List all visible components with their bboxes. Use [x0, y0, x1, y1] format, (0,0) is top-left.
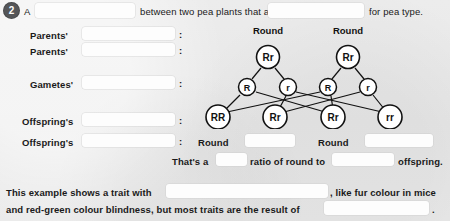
- question-number-badge: 2: [3, 2, 20, 19]
- intro-blank-2[interactable]: [268, 3, 364, 18]
- row-colon-2: :: [179, 45, 182, 56]
- parents-blank-2[interactable]: [82, 43, 175, 56]
- parent-genotype-circle-2: Rr: [337, 46, 360, 69]
- row-label-parents-1: Parents': [30, 30, 68, 41]
- gamete-circle-2: r: [280, 79, 297, 96]
- gametes-blank[interactable]: [82, 76, 175, 89]
- offspring-phenotype-1: Round: [198, 137, 229, 148]
- offspring-blank-2[interactable]: [82, 134, 175, 147]
- parent-phenotype-label-2: Round: [333, 25, 363, 36]
- parents-blank-1[interactable]: [82, 27, 175, 40]
- intro-text-part2: between two pea plants that are: [140, 6, 278, 17]
- offspring-genotype-circle-1: RR: [206, 105, 230, 129]
- conclusion-blank-1[interactable]: [166, 184, 328, 198]
- offspring-phenotype-blank-1[interactable]: [245, 134, 295, 147]
- svg-text:Rr: Rr: [262, 52, 273, 63]
- ratio-text-part2: ratio of round to: [250, 156, 325, 167]
- gamete-circle-3: R: [320, 79, 337, 96]
- conclusion-text-part1: This example shows a trait with: [6, 187, 152, 198]
- svg-text:R: R: [325, 83, 332, 93]
- genetic-cross-diagram: Round Round Rr Rr R r R: [195, 24, 410, 129]
- svg-text:r: r: [286, 83, 290, 93]
- svg-text:RR: RR: [211, 112, 226, 123]
- intro-text-part1: A: [24, 6, 30, 17]
- intro-text-part3: for pea type.: [369, 6, 423, 17]
- gamete-circle-4: r: [360, 79, 377, 96]
- worksheet-page: 2 A between two pea plants that are for …: [0, 0, 450, 221]
- svg-text:r: r: [366, 83, 370, 93]
- conclusion-blank-2[interactable]: [324, 201, 429, 215]
- ratio-blank-1[interactable]: [216, 153, 247, 166]
- row-colon-4: :: [179, 115, 182, 126]
- ratio-blank-2[interactable]: [332, 153, 394, 166]
- row-colon-1: :: [179, 29, 182, 40]
- conclusion-text-part3: and red-green colour blindness, but most…: [6, 204, 300, 215]
- row-colon-5: :: [179, 136, 182, 147]
- offspring-phenotype-2: Round: [318, 137, 349, 148]
- offspring-phenotype-blank-2[interactable]: [365, 134, 433, 147]
- offspring-genotype-circle-4: rr: [378, 105, 402, 129]
- row-label-gametes: Gametes': [30, 79, 73, 90]
- conclusion-text-part4: .: [432, 204, 435, 215]
- gamete-circle-1: R: [239, 79, 256, 96]
- row-label-parents-2: Parents': [30, 46, 68, 57]
- parent-genotype-circle-1: Rr: [257, 46, 280, 69]
- svg-text:R: R: [244, 83, 251, 93]
- svg-text:Rr: Rr: [342, 52, 353, 63]
- svg-text:rr: rr: [386, 112, 394, 123]
- row-label-offspring-2: Offspring's: [22, 137, 73, 148]
- row-label-offspring-1: Offspring's: [22, 116, 73, 127]
- offspring-genotype-circle-3: Rr: [321, 105, 345, 129]
- row-colon-3: :: [179, 78, 182, 89]
- parent-phenotype-label-1: Round: [253, 25, 283, 36]
- ratio-text-part1: That's a: [172, 156, 208, 167]
- offspring-genotype-circle-2: Rr: [263, 105, 287, 129]
- ratio-text-part3: offspring.: [398, 156, 443, 167]
- intro-blank-1[interactable]: [35, 3, 135, 18]
- svg-text:Rr: Rr: [269, 112, 280, 123]
- svg-text:Rr: Rr: [327, 112, 338, 123]
- offspring-blank-1[interactable]: [82, 113, 175, 126]
- conclusion-text-part2: , like fur colour in mice: [330, 187, 436, 198]
